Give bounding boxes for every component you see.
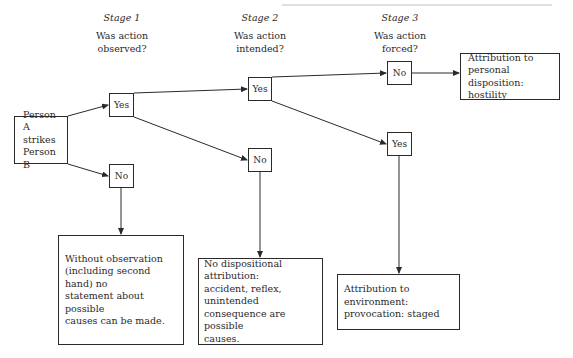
stage-2-header: Stage 2 Was action intended? [205,12,315,55]
outcome-personal-disposition: Attribution to personal disposition: hos… [460,53,560,100]
stage-1-no-node: No [109,164,134,188]
stage-2-no-node: No [248,148,272,172]
outcome-environment: Attribution to environment: provocation:… [337,274,460,330]
stage-2-question: Was action intended? [205,29,315,55]
outcome-no-observation: Without observation (including second ha… [58,235,184,345]
stage-3-question: Was action forced? [345,29,455,55]
stage-1-question: Was action observed? [67,29,177,55]
stage-3-header: Stage 3 Was action forced? [345,12,455,55]
stage-1-header: Stage 1 Was action observed? [67,12,177,55]
stage-3-yes-node: Yes [387,132,412,156]
stage-3-no-node: No [387,61,412,85]
outcome-no-dispositional-attribution: No dispositional attribution: accident, … [198,258,323,345]
stage-1-yes-node: Yes [109,93,134,117]
stage-2-yes-node: Yes [248,77,272,101]
stage-1-title: Stage 1 [67,12,177,24]
start-node-person-a-strikes: Person A strikes Person B [14,116,68,164]
stage-3-title: Stage 3 [345,12,455,24]
stage-2-title: Stage 2 [205,12,315,24]
